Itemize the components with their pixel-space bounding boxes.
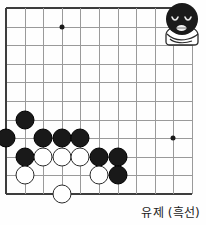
black-stone[interactable]	[0, 129, 16, 148]
grid-line-vertical	[136, 8, 137, 194]
puzzle-figure: 유제 (흑선)	[0, 0, 206, 225]
white-stone[interactable]	[34, 147, 53, 166]
grid-line-vertical	[5, 8, 7, 194]
black-stone-character	[158, 1, 206, 47]
white-stone[interactable]	[52, 147, 71, 166]
grid-line-vertical	[155, 8, 156, 194]
black-stone[interactable]	[34, 129, 53, 148]
white-stone[interactable]	[71, 147, 90, 166]
black-stone[interactable]	[15, 147, 34, 166]
white-stone[interactable]	[52, 185, 71, 204]
figure-caption: 유제 (흑선)	[0, 203, 200, 220]
black-stone[interactable]	[52, 129, 71, 148]
star-point	[59, 24, 64, 29]
white-stone[interactable]	[15, 166, 34, 185]
star-point	[171, 136, 176, 141]
black-stone[interactable]	[71, 129, 90, 148]
black-stone[interactable]	[90, 147, 109, 166]
black-stone[interactable]	[108, 147, 127, 166]
black-stone[interactable]	[15, 110, 34, 129]
black-stone[interactable]	[108, 166, 127, 185]
white-stone[interactable]	[90, 166, 109, 185]
